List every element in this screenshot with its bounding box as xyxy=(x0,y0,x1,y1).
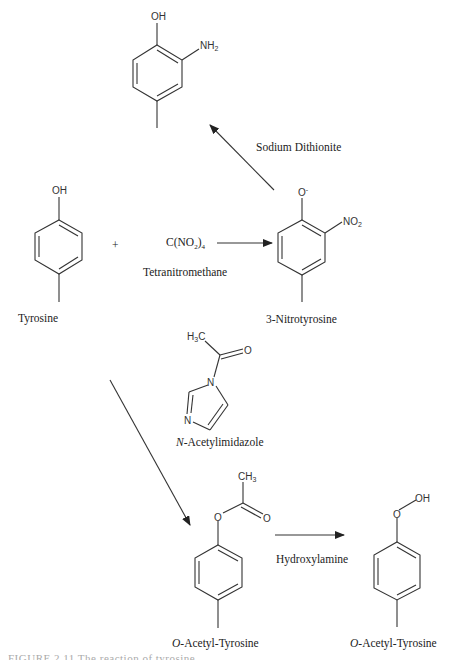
o-acetyl-tyrosine-structure: CH3 O O O-Acetyl-Tyrosine xyxy=(172,471,271,650)
nh2-label: NH2 xyxy=(200,40,218,52)
tetranitromethane-formula: C(NO2)4 xyxy=(166,236,205,251)
hydroxylamine-label: Hydroxylamine xyxy=(276,553,348,566)
no2-label: NO2 xyxy=(343,216,362,228)
o-acetyl-tyrosine-product-structure: O OH O-Acetyl-Tyrosine xyxy=(350,493,437,650)
ch3-label: CH3 xyxy=(238,471,256,483)
carbonyl-o-label: O xyxy=(263,513,271,524)
reaction-scheme: OH NH2 OH Tyrosine + C(NO2)4 Tetranitrom… xyxy=(0,0,450,660)
figure-caption-cut: FIGURE 2.11 The reaction of tyrosine ... xyxy=(8,652,448,660)
nitrotyrosine-label: 3-Nitrotyrosine xyxy=(266,313,337,326)
tetranitromethane-name: Tetranitromethane xyxy=(143,266,227,278)
acetylimidazole-label: N-Acetylimidazole xyxy=(175,436,264,449)
n3-label: N xyxy=(184,415,191,426)
o-acetyl-tyrosine-label: O-Acetyl-Tyrosine xyxy=(172,637,259,650)
oh-label: OH xyxy=(52,185,67,196)
n1-label: N xyxy=(207,377,214,388)
sodium-dithionite-label: Sodium Dithionite xyxy=(256,141,341,153)
oh-label: OH xyxy=(151,11,166,22)
h3c-label: H3C xyxy=(187,331,205,343)
carbonyl-o-label: O xyxy=(244,345,252,356)
plus-sign: + xyxy=(112,239,119,251)
nitrotyrosine-structure: O- NO2 3-Nitrotyrosine xyxy=(266,186,362,326)
aminophenol-structure: OH NH2 xyxy=(133,11,218,128)
reduction-arrow xyxy=(210,125,274,190)
tyrosine-structure: OH Tyrosine xyxy=(18,185,82,325)
o-acetyl-tyrosine-product-label: O-Acetyl-Tyrosine xyxy=(350,637,437,650)
acetylimidazole-structure: H3C O N N N-Acetylimidazole xyxy=(175,331,264,449)
acetylation-arrow xyxy=(110,380,190,525)
o-label: O xyxy=(393,509,401,520)
ester-o-label: O xyxy=(214,512,222,523)
o-minus-label: O- xyxy=(298,186,309,198)
oh-label: OH xyxy=(415,493,430,504)
tyrosine-label: Tyrosine xyxy=(18,312,58,325)
